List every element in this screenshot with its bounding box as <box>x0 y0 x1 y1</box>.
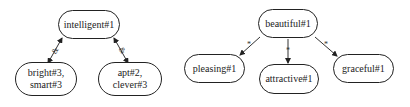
node-attractive: attractive#1 <box>259 64 319 94</box>
node-apt-clever: apt#2, clever#3 <box>98 62 162 96</box>
node-label: intelligent#1 <box>64 19 115 31</box>
node-beautiful: beautiful#1 <box>258 9 318 38</box>
node-label-line1: apt#2, <box>118 67 143 79</box>
node-label-line1: bright#3, <box>28 67 64 79</box>
edge-label: * <box>286 46 290 55</box>
edge-label: * <box>247 40 251 49</box>
node-label: attractive#1 <box>265 73 312 85</box>
node-bright-smart: bright#3, smart#3 <box>15 62 77 96</box>
node-label: graceful#1 <box>342 63 385 75</box>
node-intelligent: intelligent#1 <box>58 10 120 39</box>
edge-label: * <box>324 40 328 49</box>
node-label: pleasing#1 <box>193 63 236 75</box>
node-graceful: graceful#1 <box>333 54 394 83</box>
node-label: beautiful#1 <box>265 18 311 30</box>
node-label-line2: smart#3 <box>30 79 62 91</box>
node-pleasing: pleasing#1 <box>184 54 245 83</box>
node-label-line2: clever#3 <box>113 79 147 91</box>
